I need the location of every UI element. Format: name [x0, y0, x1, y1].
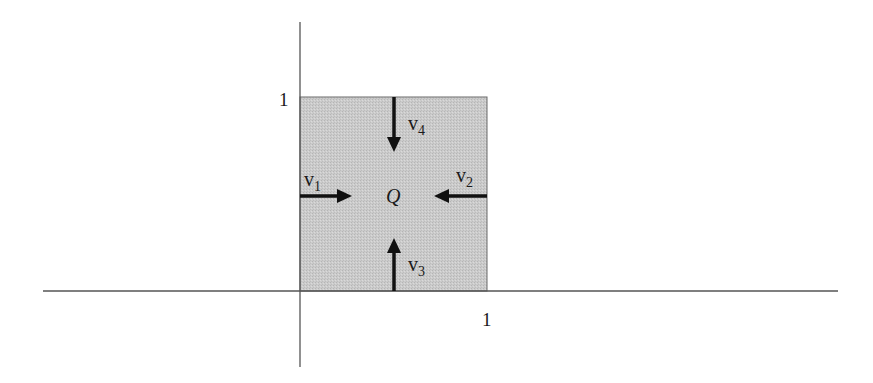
region-label-q: Q [386, 185, 401, 207]
y-tick-label: 1 [279, 89, 289, 110]
diagram-canvas: 1 1 Q v1 v2 v3 v4 [0, 0, 873, 383]
x-tick-label: 1 [482, 309, 492, 330]
